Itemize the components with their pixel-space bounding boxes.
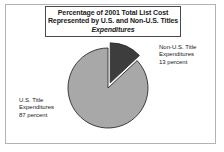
- callout-label-non-us: Non-U.S. Title Expenditures 13 percent: [159, 44, 196, 66]
- callout-non-us-line-1: Non-U.S. Title: [159, 44, 196, 51]
- pie-graphic: [58, 36, 158, 136]
- callout-us-line-2: Expenditures: [19, 104, 54, 111]
- callout-non-us-value: 13 percent: [159, 59, 196, 66]
- callout-non-us-line-2: Expenditures: [159, 51, 196, 58]
- callout-label-us: U.S. Title Expenditures 87 percent: [19, 97, 54, 119]
- chart-title-line-2: Represented by U.S. and Non-U.S. Titles: [46, 17, 180, 25]
- chart-title-line-1: Percentage of 2001 Total List Cost: [46, 9, 180, 17]
- chart-title-box: Percentage of 2001 Total List Cost Repre…: [45, 6, 181, 37]
- chart-subtitle-line: Expenditures: [46, 26, 180, 34]
- pie-svg: [58, 36, 158, 136]
- callout-us-value: 87 percent: [19, 112, 54, 119]
- pie-slice-us: [68, 48, 148, 128]
- pie-chart-figure: Percentage of 2001 Total List Cost Repre…: [0, 0, 224, 152]
- callout-us-line-1: U.S. Title: [19, 97, 54, 104]
